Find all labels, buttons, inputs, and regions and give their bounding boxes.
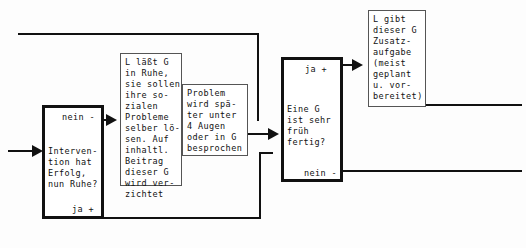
action-ruhe-text: L läßt G in Ruhe, sie sollen ihre so- zi… xyxy=(125,57,180,200)
arrow-into-fertig xyxy=(268,128,279,140)
connector-bottom-up xyxy=(259,152,261,219)
flowchart-canvas: nein - Interven- tion hat Erfolg, nun Ru… xyxy=(0,0,526,248)
connector-bottom-horizontal xyxy=(104,217,261,219)
arrow-into-zusatz xyxy=(352,59,363,71)
label-fertig-nein: nein - xyxy=(304,168,337,179)
label-fertig-ja: ja + xyxy=(305,64,327,75)
decision-fertig-text: Eine G ist sehr früh fertig? xyxy=(287,104,331,148)
connector-top-horizontal xyxy=(18,33,259,35)
connector-entry-stub xyxy=(8,150,34,152)
arrow-into-ruhe xyxy=(106,114,117,126)
decision-intervention-text: Interven- tion hat Erfolg, nun Ruhe? xyxy=(48,146,98,190)
action-zusatz-text: L gibt dieser G Zusatz- aufgabe (meist g… xyxy=(373,14,423,102)
label-intervention-nein: nein - xyxy=(62,112,95,123)
label-intervention-ja: ja + xyxy=(72,204,94,215)
action-problem-text: Problem wird spä- ter unter 4 Augen oder… xyxy=(187,88,242,154)
connector-nein-exit xyxy=(343,170,522,172)
connector-top-down xyxy=(257,33,259,121)
connector-bottom-to-decision xyxy=(259,152,273,154)
connector-zusatz-exit xyxy=(426,104,522,106)
